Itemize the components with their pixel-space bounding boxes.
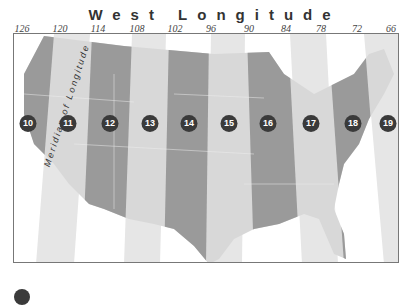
zone-badge: 19	[380, 115, 397, 132]
zone-badge: 14	[181, 115, 198, 132]
map-frame	[13, 33, 399, 263]
zone-badge: 11	[60, 115, 77, 132]
map-title: West Longitude	[0, 6, 409, 23]
zone-badge: 16	[260, 115, 277, 132]
zone-badge: 17	[303, 115, 320, 132]
legend-circle-icon	[14, 289, 30, 305]
zone-badge: 13	[142, 115, 159, 132]
zone-badge: 10	[20, 115, 37, 132]
utm-zone-map	[14, 34, 399, 263]
zone-badge: 12	[102, 115, 119, 132]
zone-badge: 18	[345, 115, 362, 132]
zone-badge: 15	[221, 115, 238, 132]
